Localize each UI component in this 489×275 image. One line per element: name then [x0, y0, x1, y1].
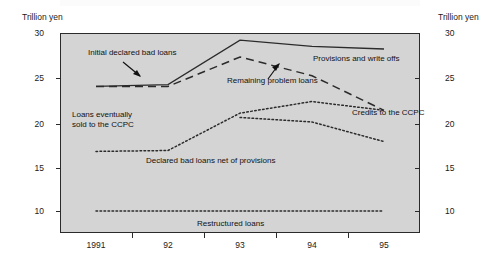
data-lines: [0, 0, 489, 275]
annotation-credits-to-the-ccpc: Credits to the CCPC: [352, 108, 424, 118]
annotation-initial-declared-bad-loans: Initial declared bad loans: [88, 48, 177, 58]
annotation-restructured-loans: Restructured loans: [197, 219, 264, 229]
chart-figure: Trillion yen Trillion yen 30 25 20 15 10…: [0, 0, 489, 275]
annotation-arrow-initial-declared-bad-loans: [123, 62, 141, 77]
annotation-declared-bad-loans-net-of-provisions: Declared bad loans net of provisions: [146, 156, 275, 166]
series-line-credits-to-the-ccpc: [240, 118, 384, 142]
series-line-declared-bad-loans-net-of-provisions: [96, 102, 384, 152]
annotation-remaining-problem-loans: Remaining problem loans: [227, 76, 318, 86]
annotation-provisions-and-write-offs: Provisions and write offs: [313, 54, 400, 64]
annotation-loans-eventually-sold-to-the-ccpc: Loans eventually sold to the CCPC: [72, 110, 134, 130]
